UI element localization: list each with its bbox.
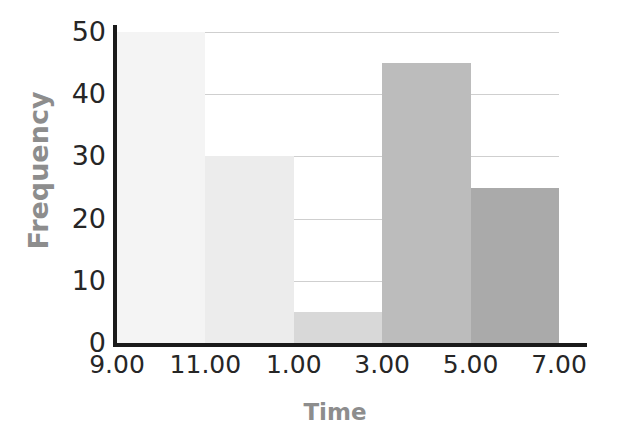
x-tick-label: 5.00 — [426, 352, 516, 377]
y-tick-label: 40 — [40, 80, 106, 107]
bar-chart: Frequency 50403020100 9.0011.001.003.005… — [0, 0, 620, 445]
bar — [471, 188, 559, 344]
x-tick-label: 11.00 — [160, 352, 250, 377]
bar — [205, 156, 293, 343]
x-tick-label: 9.00 — [72, 352, 162, 377]
y-tick-label: 30 — [40, 142, 106, 169]
bar — [294, 312, 382, 343]
x-tick-label: 1.00 — [249, 352, 339, 377]
x-tick-label: 3.00 — [337, 352, 427, 377]
x-tick-label: 7.00 — [514, 352, 604, 377]
plot-area — [117, 32, 559, 343]
bar — [117, 32, 205, 343]
y-tick-label: 20 — [40, 205, 106, 232]
bar — [382, 63, 470, 343]
x-axis-title: Time — [110, 399, 560, 425]
y-tick-label: 10 — [40, 267, 106, 294]
y-tick-label: 50 — [40, 18, 106, 45]
y-axis-line — [113, 25, 117, 345]
x-axis-line — [113, 343, 587, 347]
